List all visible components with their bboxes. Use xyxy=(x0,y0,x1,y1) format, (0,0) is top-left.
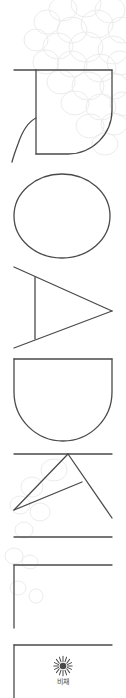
spine-title-lettering xyxy=(0,0,126,698)
sunburst-icon xyxy=(52,655,74,677)
publisher-name: 비채 xyxy=(0,678,126,686)
publisher-imprint: 비채 xyxy=(0,655,126,686)
book-spine: 비채 xyxy=(0,0,126,698)
